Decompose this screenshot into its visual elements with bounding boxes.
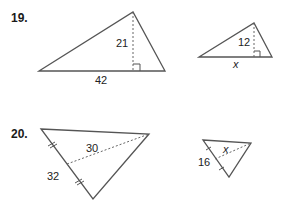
median-label: 30 [86,142,98,154]
geometry-figures: 19. 21 42 12 x 20. 30 32 x 16 [0,0,282,201]
median-variable-label: x [222,143,229,155]
height-label: 21 [116,37,128,49]
problem-19-number: 19. [11,11,28,25]
triangle-outline [41,129,149,199]
base-label: 42 [95,74,107,86]
right-angle-marker [254,51,260,57]
problem-19-triangle-small: 12 x [199,23,272,70]
base-variable-label: x [232,58,239,70]
side-label: 32 [47,170,59,182]
problem-20-triangle-large: 30 32 [41,129,149,199]
problem-19-triangle-large: 21 42 [39,12,165,86]
problem-20-triangle-small: x 16 [198,140,251,177]
side-label: 16 [198,156,210,168]
problem-20-number: 20. [11,127,28,141]
triangle-outline [199,23,272,57]
right-angle-marker [133,64,140,71]
triangle-outline [39,12,165,71]
height-label: 12 [238,36,250,48]
